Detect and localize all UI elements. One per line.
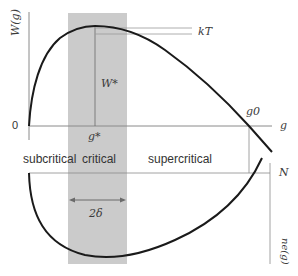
y-axis-label: W(g) <box>10 9 21 36</box>
root-label: g0 <box>246 106 260 117</box>
region-subcritical: subcritical <box>23 153 76 165</box>
w-curve <box>29 26 272 152</box>
peak-x-label: g* <box>88 131 101 142</box>
diagram-canvas <box>0 0 298 276</box>
lower-y-axis-label: ne(g) <box>280 238 290 265</box>
lower-axis-label: N <box>279 167 289 178</box>
kt-label: kT <box>198 26 212 37</box>
peak-height-label: W* <box>101 78 118 89</box>
region-supercritical: supercritical <box>148 153 212 165</box>
width-label: 2δ <box>89 208 103 219</box>
origin-label: 0 <box>12 120 18 131</box>
x-axis-label: g <box>280 120 287 131</box>
nucleation-diagram: W(g) 0 g g* W* kT g0 N ne(g) 2δ subcriti… <box>0 0 298 276</box>
region-critical: critical <box>82 153 116 165</box>
